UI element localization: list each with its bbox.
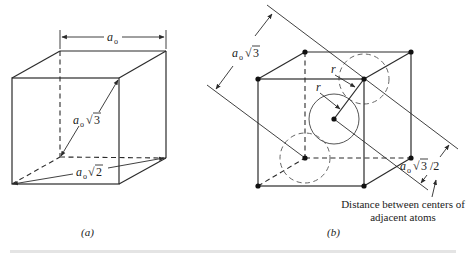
- atom-front-bl: [255, 183, 260, 188]
- svg-text:/2: /2: [430, 159, 439, 173]
- svg-text:o: o: [407, 166, 411, 175]
- svg-text:a: a: [232, 46, 238, 60]
- svg-text:a: a: [73, 113, 79, 127]
- atom-front-tl: [255, 76, 260, 81]
- atom-back-br: [408, 155, 413, 160]
- svg-text:√: √: [88, 165, 95, 179]
- lower-extension-line: [207, 85, 305, 158]
- annotation-leader-arrow: [432, 180, 436, 197]
- radius-arrow-lower: [320, 93, 340, 109]
- panel-b-label: (b): [327, 226, 340, 239]
- top-right-connector: [364, 52, 411, 79]
- figure-canvas: a o a o √ 3 a o √ 2 (a): [0, 0, 466, 253]
- front-face: [12, 78, 119, 184]
- svg-text:o: o: [80, 120, 84, 129]
- top-left-connector: [12, 51, 60, 78]
- atom-back-bl: [302, 155, 307, 160]
- svg-text:o: o: [239, 53, 243, 62]
- body-diagonal-label: a o √ 3: [232, 46, 260, 62]
- annotation-line-2: adjacent atoms: [370, 211, 436, 223]
- svg-text:√: √: [86, 113, 93, 127]
- panel-b-bcc-cell: a o √ 3 r r a o √ 3 /2 Distance between …: [207, 5, 465, 239]
- atom-front-br: [361, 183, 366, 188]
- svg-text:o: o: [83, 172, 87, 181]
- face-diagonal-label: a o √ 2: [76, 165, 103, 181]
- dim-arrow-upper: [255, 14, 272, 36]
- svg-text:√: √: [245, 46, 252, 60]
- svg-text:3: 3: [421, 159, 427, 173]
- radius-label-upper: r: [331, 62, 336, 76]
- panel-a-cube: a o a o √ 3 a o √ 2 (a): [12, 30, 166, 239]
- top-right-connector: [119, 51, 166, 78]
- atom-back-tl: [302, 49, 307, 54]
- svg-text:a: a: [107, 30, 113, 44]
- svg-text:a: a: [76, 165, 82, 179]
- half-diagonal-label: a o √ 3 /2: [400, 159, 439, 175]
- svg-text:a: a: [400, 159, 406, 173]
- svg-text:2: 2: [96, 165, 102, 179]
- hidden-back-bottom-edge: [60, 157, 166, 158]
- middle-extension-line: [334, 119, 428, 190]
- radius-arrow-upper: [335, 75, 355, 87]
- front-face: [258, 79, 364, 186]
- atom-body-center: [331, 116, 336, 121]
- svg-text:3: 3: [253, 46, 259, 60]
- radius-label-lower: r: [316, 80, 321, 94]
- half-dim-arrow-lower: [421, 175, 427, 183]
- half-dim-arrow-upper: [440, 145, 449, 157]
- face-diagonal-arrow-right: [108, 158, 164, 168]
- svg-text:√: √: [413, 159, 420, 173]
- annotation-line-1: Distance between centers of: [341, 198, 465, 210]
- body-diagonal-arrow-down: [61, 126, 79, 156]
- body-diagonal-arrow-up: [99, 80, 118, 112]
- atom-front-tr: [361, 76, 366, 81]
- svg-text:3: 3: [94, 113, 100, 127]
- panel-a-label: (a): [81, 226, 94, 239]
- body-diagonal-label: a o √ 3: [73, 113, 101, 129]
- edge-length-label: a o: [107, 30, 118, 46]
- svg-text:o: o: [114, 37, 118, 46]
- top-left-connector: [258, 52, 305, 79]
- dim-arrow-lower: [216, 66, 233, 89]
- atom-back-tr: [408, 49, 413, 54]
- center-to-corner-line: [334, 79, 364, 119]
